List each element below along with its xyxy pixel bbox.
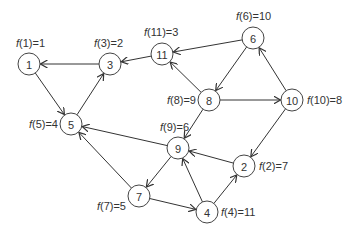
node-3: 3 xyxy=(99,53,121,75)
edge-6-to-8 xyxy=(216,47,247,91)
node-6-value-label: f(6)=10 xyxy=(236,10,271,22)
node-2-value-label: f(2)=7 xyxy=(259,160,288,172)
edge-8-to-11 xyxy=(170,62,201,92)
node-5-value-label: f(5)=4 xyxy=(29,118,58,130)
edge-2-to-9 xyxy=(189,151,233,163)
node-id-text: 11 xyxy=(156,49,167,61)
edge-4-to-2 xyxy=(214,175,237,203)
node-3-value-label: f(3)=2 xyxy=(94,37,123,49)
node-id-text: 7 xyxy=(136,191,142,203)
node-10-value-label: f(10)=8 xyxy=(307,94,342,106)
edge-5-to-3 xyxy=(77,74,104,115)
edge-10-to-2 xyxy=(251,109,286,157)
edge-9-to-7 xyxy=(146,157,171,188)
graph-svg: 1311681059274 f(1)=1f(3)=2f(11)=3f(6)=10… xyxy=(0,0,355,235)
node-id-text: 5 xyxy=(68,119,74,131)
node-1-value-label: f(1)=1 xyxy=(16,37,45,49)
edge-9-to-5 xyxy=(82,127,167,146)
labels-layer: f(1)=1f(3)=2f(11)=3f(6)=10f(8)=9f(10)=8f… xyxy=(16,10,342,218)
node-id-text: 2 xyxy=(241,161,247,173)
edge-11-to-3 xyxy=(121,56,151,62)
node-11-value-label: f(11)=3 xyxy=(144,26,178,38)
node-10: 10 xyxy=(281,89,303,111)
node-id-text: 1 xyxy=(26,59,32,71)
node-6: 6 xyxy=(242,27,264,49)
edge-7-to-5 xyxy=(79,132,131,188)
node-7-value-label: f(7)=5 xyxy=(97,200,126,212)
edge-6-to-11 xyxy=(173,40,242,52)
node-id-text: 6 xyxy=(250,33,256,45)
edge-4-to-9 xyxy=(183,159,203,203)
node-4-value-label: f(4)=11 xyxy=(221,206,255,218)
edge-7-to-4 xyxy=(150,199,196,210)
node-id-text: 8 xyxy=(206,95,212,107)
node-8-value-label: f(8)=9 xyxy=(167,94,196,106)
node-11: 11 xyxy=(151,43,173,65)
node-id-text: 4 xyxy=(204,207,210,219)
node-id-text: 3 xyxy=(107,59,113,71)
node-2: 2 xyxy=(233,155,255,177)
node-4: 4 xyxy=(196,201,218,223)
node-9-value-label: f(9)=6 xyxy=(160,121,189,133)
node-id-text: 10 xyxy=(286,95,298,107)
node-id-text: 9 xyxy=(175,143,181,155)
node-9: 9 xyxy=(167,137,189,159)
node-8: 8 xyxy=(198,89,220,111)
node-5: 5 xyxy=(60,113,82,135)
edge-1-to-5 xyxy=(35,73,64,115)
node-1: 1 xyxy=(18,53,40,75)
edge-10-to-6 xyxy=(259,48,286,91)
graph-diagram: 1311681059274 f(1)=1f(3)=2f(11)=3f(6)=10… xyxy=(0,0,355,235)
node-7: 7 xyxy=(128,185,150,207)
